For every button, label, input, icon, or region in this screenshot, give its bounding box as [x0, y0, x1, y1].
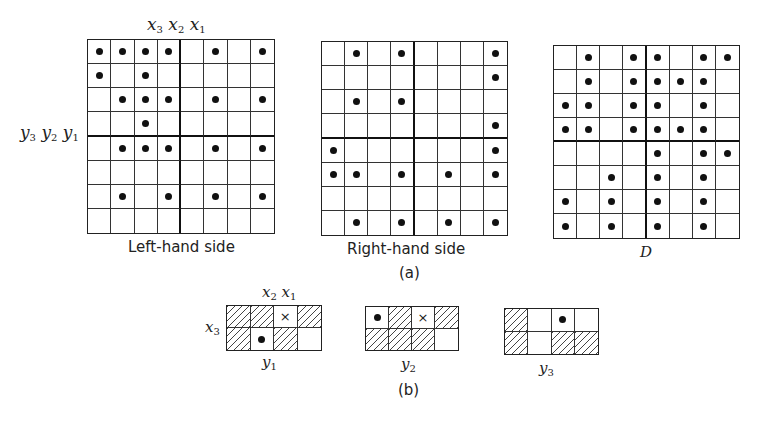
grid-cell	[391, 114, 414, 138]
grid-cell	[461, 42, 484, 66]
grid-cell	[600, 46, 623, 70]
grid-cell	[484, 114, 507, 138]
dot-marker	[353, 171, 360, 178]
grid-cell	[111, 137, 134, 161]
y2-label: y2	[401, 355, 416, 374]
grid-cell	[345, 114, 368, 138]
grid-cell	[181, 209, 204, 233]
grid-cell	[577, 118, 600, 142]
grid-cell	[88, 112, 111, 136]
caption-b: (b)	[398, 381, 419, 399]
dot-marker	[212, 193, 219, 200]
dot-marker	[559, 316, 566, 323]
grid-cell	[600, 214, 623, 238]
dot-marker	[119, 96, 126, 103]
d-label: D	[640, 243, 652, 261]
grid-cell	[461, 90, 484, 114]
grid-cell	[484, 163, 507, 187]
grid-cell	[554, 214, 577, 238]
grid-cell	[111, 88, 134, 112]
map-cell-hatch	[366, 329, 389, 351]
grid-cell	[228, 161, 251, 185]
grid-cell	[181, 137, 204, 161]
grid-cell	[135, 40, 158, 64]
dot-marker	[654, 150, 661, 157]
dot-marker	[259, 48, 266, 55]
grid-cell	[623, 166, 646, 190]
grid-cell	[158, 209, 181, 233]
grid-cell	[391, 163, 414, 187]
grid-cell	[158, 185, 181, 209]
dot-marker	[165, 96, 172, 103]
cross-marker-icon: ×	[280, 310, 291, 323]
grid-cell	[345, 66, 368, 90]
grid-cell	[670, 118, 693, 142]
grid-cell	[88, 209, 111, 233]
grid-cell	[461, 114, 484, 138]
dot-marker	[142, 48, 149, 55]
grid-cell	[158, 88, 181, 112]
grid-cell	[88, 161, 111, 185]
grid-cell	[204, 161, 227, 185]
grid-cell	[600, 190, 623, 214]
grid-cell	[415, 139, 438, 163]
grid-cell	[322, 90, 345, 114]
grid-cell	[577, 190, 600, 214]
map-cell-empty	[575, 309, 598, 332]
y1-grid: ×	[226, 305, 322, 351]
dot-marker	[630, 54, 637, 61]
grid-cell	[391, 211, 414, 235]
grid-cell	[251, 161, 274, 185]
dot-marker	[562, 223, 569, 230]
grid-cell	[251, 88, 274, 112]
grid-cell	[716, 118, 739, 142]
grid-cell	[438, 163, 461, 187]
grid-cell	[251, 185, 274, 209]
grid-cell	[647, 190, 670, 214]
grid-cell	[88, 40, 111, 64]
dot-marker	[700, 54, 707, 61]
grid-cell	[461, 139, 484, 163]
dot-marker	[165, 145, 172, 152]
grid-cell	[716, 142, 739, 166]
b-side-variable-label: x3	[205, 318, 220, 337]
grid-cell	[204, 185, 227, 209]
grid-cell	[484, 139, 507, 163]
grid-cell	[461, 211, 484, 235]
dot-marker	[212, 96, 219, 103]
grid-cell	[181, 88, 204, 112]
grid-cell	[251, 40, 274, 64]
grid-cell	[415, 66, 438, 90]
dot-marker	[585, 102, 592, 109]
grid-cell	[670, 70, 693, 94]
grid-cell	[135, 112, 158, 136]
grid-cell	[158, 137, 181, 161]
grid-cell	[204, 137, 227, 161]
dot-marker	[330, 147, 337, 154]
grid-cell	[228, 137, 251, 161]
dot-marker	[608, 174, 615, 181]
right-hand-side-grid	[321, 41, 508, 236]
grid-cell	[251, 137, 274, 161]
grid-cell	[438, 211, 461, 235]
grid-cell	[251, 209, 274, 233]
grid-cell	[484, 187, 507, 211]
map-cell-hatch	[575, 332, 598, 355]
map-cell-hatch	[412, 329, 435, 351]
dot-marker	[700, 126, 707, 133]
dot-marker	[608, 223, 615, 230]
grid-cell	[670, 190, 693, 214]
grid-cell	[461, 187, 484, 211]
grid-cell	[415, 114, 438, 138]
dot-marker	[259, 145, 266, 152]
grid-cell	[228, 209, 251, 233]
dot-marker	[700, 102, 707, 109]
map-cell-dot	[552, 309, 575, 332]
dot-marker	[724, 150, 731, 157]
map-cell-dot	[366, 307, 389, 329]
grid-cell	[251, 64, 274, 88]
grid-cell	[135, 185, 158, 209]
map-cell-hatch	[505, 309, 528, 332]
grid-cell	[368, 211, 391, 235]
dot-marker	[374, 314, 381, 321]
